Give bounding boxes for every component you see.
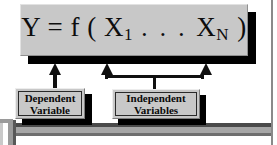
independent-arrow-head-right-icon [200,63,212,75]
diagram-canvas: Y = f ( X1 . . . XN ) Dependent Variable… [0,0,277,145]
independent-label-line1: Independent [126,92,185,104]
independent-variables-box: Independent Variables [112,89,200,119]
formula-var-2: X [196,12,216,42]
dependent-label-line2: Variable [30,104,70,116]
page-frame-bar-shadow [16,133,272,136]
independent-bracket-right-stub [201,75,204,79]
independent-label-line2: Variables [134,104,178,116]
formula-box: Y = f ( X1 . . . XN ) [20,4,248,56]
formula-lead: Y = f ( X [21,12,124,42]
independent-bracket-left-stub [105,75,108,79]
formula-subscript-n: N [216,25,228,44]
dependent-variable-box: Dependent Variable [15,88,85,119]
page-frame-right-line [271,0,273,145]
dependent-arrow-head-icon [49,63,61,75]
independent-arrow-head-left-icon [101,63,113,75]
dependent-label-line1: Dependent [25,92,76,104]
formula-text: Y = f ( X1 . . . XN ) [21,14,247,46]
formula-ellipsis: . . . [141,14,187,41]
dependent-arrow-stem [53,75,57,89]
formula-close-paren: ) [237,12,247,42]
